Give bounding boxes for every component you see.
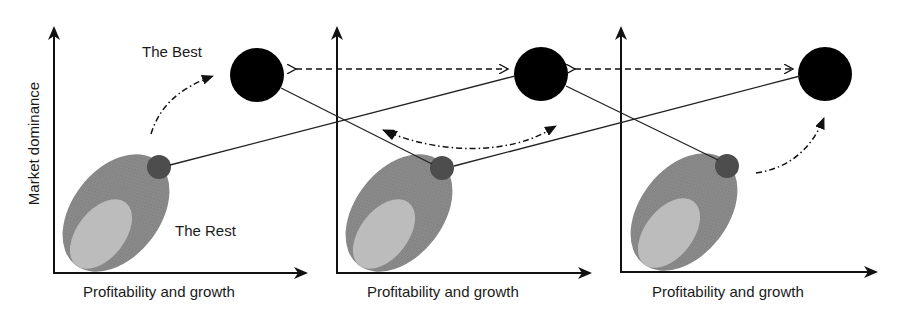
small-circle (147, 155, 171, 179)
dashdot-arrow-up (756, 118, 824, 173)
label-the-rest: The Rest (175, 222, 236, 239)
link-best2-rest3 (566, 86, 718, 160)
dashdot-double-arrow (383, 128, 553, 149)
diagram-canvas (0, 0, 903, 326)
link-rest1-best2 (170, 76, 515, 165)
best-circle (514, 47, 568, 101)
label-the-best: The Best (142, 43, 202, 60)
best-circle (230, 48, 284, 102)
best-circle (798, 47, 852, 101)
dashdot-arrow-up (151, 76, 213, 134)
x-axis-label-panel-2: Profitability and growth (367, 283, 519, 300)
x-axis-label-panel-3: Profitability and growth (652, 283, 804, 300)
panel-2 (324, 28, 590, 292)
panel-1 (41, 28, 306, 292)
link-rest2-best3 (454, 76, 800, 166)
link-best1-rest2 (281, 88, 432, 164)
small-circle (430, 156, 454, 180)
panel-3 (609, 28, 876, 291)
x-axis-label-panel-1: Profitability and growth (83, 283, 235, 300)
small-circle (715, 154, 739, 178)
y-axis-label: Market dominance (25, 79, 42, 209)
